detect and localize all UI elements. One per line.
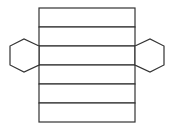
hexagonal-prism-net: [0, 0, 174, 132]
lateral-face: [39, 103, 135, 122]
right-hexagon-base: [135, 39, 164, 72]
lateral-face: [39, 8, 135, 27]
left-hexagon-base: [10, 39, 39, 72]
lateral-face: [39, 84, 135, 103]
lateral-face: [39, 46, 135, 65]
lateral-face: [39, 27, 135, 46]
lateral-faces: [39, 8, 135, 122]
net-diagram: [0, 0, 174, 132]
lateral-face: [39, 65, 135, 84]
